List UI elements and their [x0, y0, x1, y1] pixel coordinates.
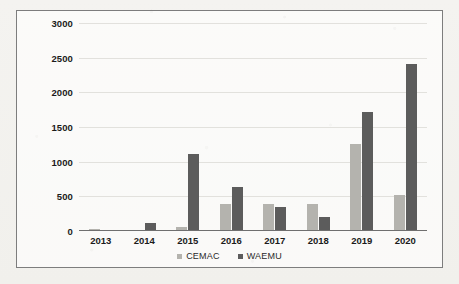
- bar-group: 2017: [253, 23, 297, 230]
- bar-cemac-2018[interactable]: [307, 204, 318, 230]
- y-axis-tick-label: 2500: [51, 52, 73, 63]
- bar-waemu-2014[interactable]: [145, 223, 156, 230]
- bar-waemu-2020[interactable]: [406, 64, 417, 230]
- legend-swatch-icon: [177, 254, 182, 259]
- bar-group: 2020: [384, 23, 428, 230]
- legend-label: CEMAC: [186, 251, 220, 261]
- x-axis-tick-label: 2014: [134, 235, 155, 246]
- chart-legend: CEMACWAEMU: [17, 251, 442, 261]
- bar-cemac-2017[interactable]: [263, 204, 274, 230]
- y-axis-tick-label: 3000: [51, 18, 73, 29]
- y-axis-tick-label: 0: [68, 226, 73, 237]
- y-axis-tick-label: 2000: [51, 87, 73, 98]
- bar-waemu-2016[interactable]: [232, 187, 243, 230]
- y-axis-tick-label: 1000: [51, 156, 73, 167]
- x-axis-tick-label: 2020: [395, 235, 416, 246]
- bar-group: 2019: [340, 23, 384, 230]
- x-axis-tick-label: 2019: [351, 235, 372, 246]
- legend-swatch-icon: [238, 254, 243, 259]
- x-axis-tick-label: 2018: [308, 235, 329, 246]
- legend-label: WAEMU: [247, 251, 282, 261]
- x-axis-tick-label: 2013: [90, 235, 111, 246]
- bar-cemac-2020[interactable]: [394, 195, 405, 230]
- bar-cemac-2016[interactable]: [220, 204, 231, 230]
- bar-group: 2018: [297, 23, 341, 230]
- x-axis-tick-label: 2015: [177, 235, 198, 246]
- y-axis-tick-label: 1500: [51, 122, 73, 133]
- chart-frame: 300025002000150010005000 201320142015201…: [16, 10, 443, 268]
- y-axis-tick-label: 500: [57, 191, 73, 202]
- bar-group: 2016: [210, 23, 254, 230]
- x-axis-tick-label: 2016: [221, 235, 242, 246]
- bar-waemu-2015[interactable]: [188, 154, 199, 230]
- bar-cemac-2015[interactable]: [176, 227, 187, 230]
- bar-waemu-2018[interactable]: [319, 217, 330, 230]
- plot-area: 300025002000150010005000 201320142015201…: [79, 23, 427, 231]
- bar-group: 2013: [79, 23, 123, 230]
- x-axis-tick-label: 2017: [264, 235, 285, 246]
- bar-waemu-2019[interactable]: [362, 112, 373, 230]
- bar-waemu-2017[interactable]: [275, 207, 286, 230]
- bar-groups: 20132014201520162017201820192020: [79, 23, 427, 230]
- bar-cemac-2013[interactable]: [89, 229, 100, 230]
- bar-group: 2015: [166, 23, 210, 230]
- bar-group: 2014: [123, 23, 167, 230]
- legend-item-waemu[interactable]: WAEMU: [238, 251, 282, 261]
- legend-item-cemac[interactable]: CEMAC: [177, 251, 220, 261]
- bar-cemac-2019[interactable]: [350, 144, 361, 230]
